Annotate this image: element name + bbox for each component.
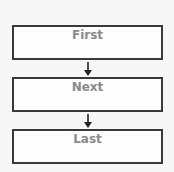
arrow-down-icon <box>84 62 92 76</box>
flow-node-last: Last <box>12 129 163 164</box>
flow-node-next: Next <box>12 77 163 112</box>
flow-node-first: First <box>12 25 163 60</box>
node-label: Last <box>14 132 161 146</box>
arrow-down-icon <box>84 114 92 128</box>
node-label: Next <box>14 80 161 94</box>
node-label: First <box>14 28 161 42</box>
